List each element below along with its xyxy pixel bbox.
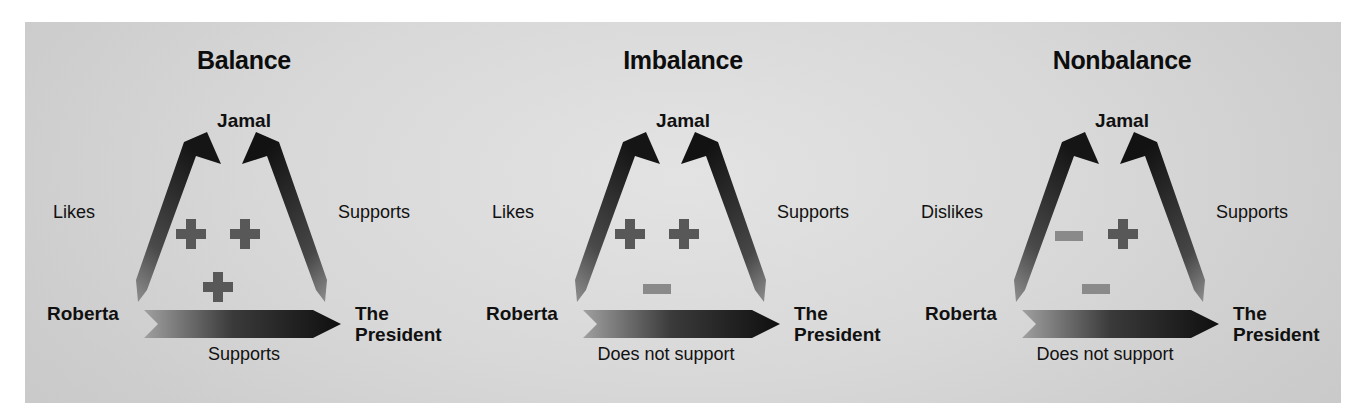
diagram-background-panel: Balance Jamal Roberta The President Like…: [25, 22, 1341, 403]
sign-left: [176, 219, 206, 249]
figure-canvas: Balance Jamal Roberta The President Like…: [0, 0, 1356, 418]
arrow-right-up: [1120, 132, 1205, 302]
relationship-arrows: [25, 22, 463, 403]
sign-right: [230, 219, 260, 249]
sign-bottom: [643, 284, 671, 294]
sign-left: [615, 219, 645, 249]
relationship-arrows: [464, 22, 902, 403]
arrow-bottom-right: [1022, 310, 1219, 338]
panel-balance: Balance Jamal Roberta The President Like…: [25, 22, 463, 403]
arrow-bottom-right: [583, 310, 780, 338]
panel-imbalance: Imbalance Jamal Roberta The President Li…: [464, 22, 902, 403]
relationship-arrows: [903, 22, 1341, 403]
sign-right: [669, 219, 699, 249]
arrow-right-up: [681, 132, 766, 302]
panel-nonbalance: Nonbalance Jamal Roberta The President D…: [903, 22, 1341, 403]
arrow-left-up: [1014, 132, 1099, 302]
arrow-right-up: [242, 132, 327, 302]
sign-bottom: [203, 272, 233, 302]
arrow-left-up: [575, 132, 660, 302]
sign-bottom: [1082, 284, 1110, 294]
sign-right: [1108, 219, 1138, 249]
sign-left: [1055, 231, 1083, 241]
arrow-bottom-right: [144, 310, 341, 338]
